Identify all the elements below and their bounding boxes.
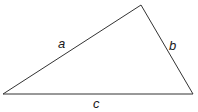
side-label-b: b xyxy=(169,38,176,53)
triangle-diagram: a b c xyxy=(0,0,198,112)
triangle-shape xyxy=(3,5,193,94)
side-label-c: c xyxy=(93,96,100,111)
side-label-a: a xyxy=(58,36,65,51)
